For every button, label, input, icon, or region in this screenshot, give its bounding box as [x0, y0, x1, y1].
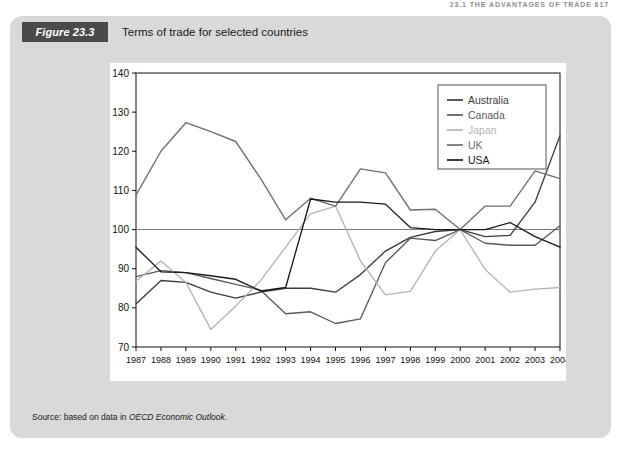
y-tick-label: 80	[118, 302, 130, 313]
legend-label-japan: Japan	[468, 124, 497, 136]
y-tick-label: 120	[112, 146, 129, 157]
y-tick-label: 90	[118, 263, 130, 274]
x-tick-label: 1993	[276, 355, 296, 365]
legend-label-canada: Canada	[468, 109, 505, 121]
figure-title: Terms of trade for selected countries	[122, 22, 308, 42]
y-tick-label: 130	[112, 107, 129, 118]
legend-label-usa: USA	[468, 154, 490, 166]
x-tick-label: 2004	[550, 355, 566, 365]
x-tick-label: 1997	[375, 355, 395, 365]
y-tick-label: 100	[112, 224, 129, 235]
x-tick-label: 1999	[425, 355, 445, 365]
source-prefix: Source: based on data in	[32, 412, 129, 422]
running-head: 23.1 THE ADVANTAGES OF TRADE 617	[450, 1, 609, 8]
figure-caption-row: Figure 23.3 Terms of trade for selected …	[10, 16, 611, 42]
x-tick-label: 1987	[126, 355, 146, 365]
source-note: Source: based on data in OECD Economic O…	[32, 412, 227, 422]
x-tick-label: 2002	[500, 355, 520, 365]
x-tick-label: 2000	[450, 355, 470, 365]
figure-number-badge: Figure 23.3	[22, 22, 108, 42]
figure-panel: Figure 23.3 Terms of trade for selected …	[10, 16, 611, 438]
y-tick-label: 140	[112, 68, 129, 79]
x-tick-label: 1994	[301, 355, 321, 365]
x-tick-label: 1996	[350, 355, 370, 365]
source-suffix: .	[225, 412, 227, 422]
x-tick-label: 2001	[475, 355, 495, 365]
x-tick-label: 1998	[400, 355, 420, 365]
line-chart: 7080901001101201301401987198819891990199…	[110, 63, 566, 381]
x-tick-label: 1988	[151, 355, 171, 365]
plot-area: 7080901001101201301401987198819891990199…	[110, 63, 566, 381]
figure-page: 23.1 THE ADVANTAGES OF TRADE 617 Figure …	[0, 0, 631, 455]
legend-label-australia: Australia	[468, 94, 509, 106]
x-tick-label: 1995	[326, 355, 346, 365]
legend-label-uk: UK	[468, 139, 483, 151]
x-tick-label: 1990	[201, 355, 221, 365]
y-tick-label: 110	[113, 185, 129, 196]
x-tick-label: 1991	[226, 355, 246, 365]
y-tick-label: 70	[118, 342, 130, 353]
source-publication: OECD Economic Outlook	[129, 412, 225, 422]
x-tick-label: 2003	[525, 355, 545, 365]
series-line-japan	[136, 206, 560, 329]
x-tick-label: 1989	[176, 355, 196, 365]
series-line-usa	[136, 199, 560, 291]
x-tick-label: 1992	[251, 355, 271, 365]
